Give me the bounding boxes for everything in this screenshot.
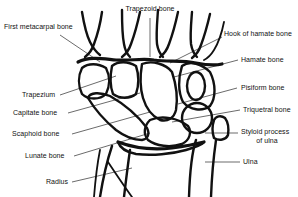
label-hook-of-hamate-bone: Hook of hamate bone bbox=[224, 30, 292, 39]
label-styloid-process-of-ulna-line2: of ulna bbox=[241, 137, 293, 146]
leader-scaphoid bbox=[72, 112, 150, 134]
ulna-bone-medial bbox=[211, 140, 216, 197]
styloid-process-of-ulna bbox=[213, 116, 229, 139]
label-trapezoid-bone: Trapezoid bone bbox=[105, 5, 195, 14]
distal-carpal-row bbox=[78, 58, 222, 120]
hook-of-hamate-bone bbox=[187, 72, 205, 100]
label-capitate-bone: Capitate bone bbox=[13, 109, 57, 118]
label-trapezium: Trapezium bbox=[22, 91, 55, 100]
scaphoid-bone bbox=[88, 93, 148, 140]
pisiform-bone bbox=[182, 103, 212, 133]
triquetral-bone bbox=[145, 118, 190, 147]
label-triquetral-bone: Triquetral bone bbox=[243, 106, 291, 115]
label-first-metacarpal-bone: First metacarpal bone bbox=[4, 23, 73, 32]
anatomy-diagram-figure: First metacarpal bone Trapezoid bone Hoo… bbox=[0, 0, 298, 197]
label-scaphoid-bone: Scaphoid bone bbox=[12, 130, 59, 139]
radius-bone-lateral bbox=[100, 146, 112, 197]
label-ulna: Ulna bbox=[243, 158, 258, 167]
label-hamate-bone: Hamate bone bbox=[241, 56, 284, 65]
label-styloid-process-of-ulna-line1: Styloid process bbox=[241, 128, 289, 137]
trapezoid-bone bbox=[111, 62, 139, 98]
label-pisiform-bone: Pisiform bone bbox=[241, 84, 284, 93]
third-metacarpal-bone bbox=[157, 10, 163, 57]
label-lunate-bone: Lunate bone bbox=[25, 152, 64, 161]
fourth-metacarpal-bone-medial bbox=[192, 14, 210, 58]
radius-styloid bbox=[94, 150, 100, 197]
leader-lunate bbox=[74, 133, 150, 156]
metacarpal-bones bbox=[82, 10, 224, 60]
capitate-bone bbox=[141, 62, 177, 120]
third-metacarpal-bone-medial bbox=[160, 12, 178, 57]
label-radius: Radius bbox=[46, 178, 68, 187]
